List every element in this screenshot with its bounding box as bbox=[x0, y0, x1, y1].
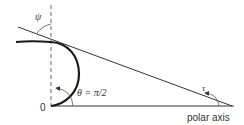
theta-label: θ = π/2 bbox=[77, 87, 106, 98]
tau-angle-arc bbox=[205, 93, 219, 106]
polar-diagram: ψ θ = π/2 τ 0 polar axis bbox=[0, 0, 244, 125]
psi-label: ψ bbox=[35, 11, 42, 22]
polar-axis-label: polar axis bbox=[187, 112, 230, 123]
origin-label: 0 bbox=[40, 102, 46, 113]
tau-label: τ bbox=[202, 83, 206, 93]
tangent-line bbox=[18, 27, 232, 106]
polar-curve bbox=[16, 41, 79, 106]
psi-angle-arc bbox=[37, 24, 51, 33]
